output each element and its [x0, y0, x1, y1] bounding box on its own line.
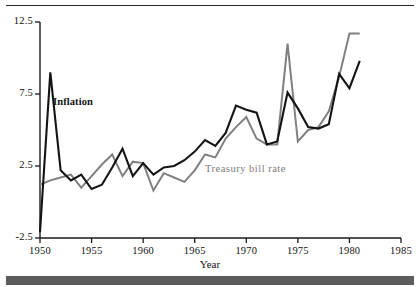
x-axis-tick-label: 1960	[118, 245, 168, 256]
chart-line-treasury-bill-rate	[40, 34, 360, 191]
y-axis-ticks	[35, 22, 40, 238]
chart-plot-area	[0, 0, 420, 287]
y-axis-tick-label: 12.5	[0, 15, 33, 26]
x-axis-title: Year	[0, 258, 420, 270]
x-axis-tick-label: 1975	[273, 245, 323, 256]
x-axis-tick-label: 1985	[376, 245, 420, 256]
chart-figure: -2.52.57.512.5 1950195519601965197019751…	[0, 0, 420, 287]
x-axis-ticks	[40, 238, 401, 243]
inflation-series-label: Inflation	[53, 96, 93, 107]
y-axis-tick-label: 7.5	[0, 87, 33, 98]
x-axis-tick-label: 1965	[170, 245, 220, 256]
x-axis-tick-label: 1950	[15, 245, 65, 256]
y-axis-tick-label: -2.5	[0, 231, 33, 242]
treasury-bill-rate-series-label: Treasury bill rate	[205, 163, 286, 174]
x-axis-tick-label: 1980	[324, 245, 374, 256]
bottom-gray-bar	[6, 276, 414, 285]
y-axis-tick-label: 2.5	[0, 159, 33, 170]
x-axis-tick-label: 1955	[67, 245, 117, 256]
chart-line-inflation	[40, 61, 360, 232]
x-axis-tick-label: 1970	[221, 245, 271, 256]
chart-series-group	[40, 34, 360, 233]
